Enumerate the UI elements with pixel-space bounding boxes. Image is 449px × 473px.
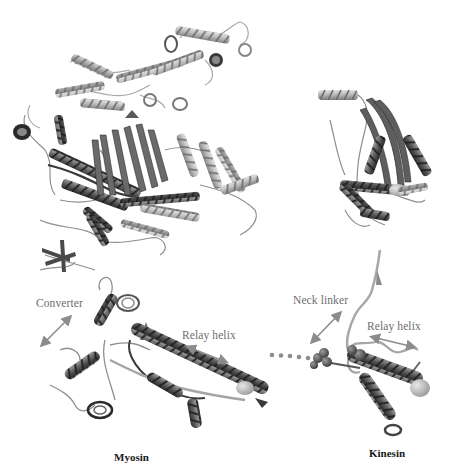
myosin-core-structure (50, 277, 271, 428)
protein-structure-figure: Converter Relay helix Neck linker Relay … (0, 0, 449, 473)
converter-label: Converter (36, 297, 83, 309)
myosin-relay-helix-label: Relay helix (182, 329, 236, 341)
structures-canvas (0, 0, 449, 473)
myosin-full-structure (13, 22, 260, 272)
kinesin-relay-helix-label: Relay helix (367, 320, 421, 332)
dotted-connector (270, 353, 311, 361)
neck-linker-label: Neck linker (293, 294, 348, 306)
kinesin-full-structure (318, 90, 433, 226)
neck-linker-arrow (312, 313, 340, 342)
converter-arrow (42, 317, 70, 345)
myosin-caption: Myosin (114, 451, 149, 463)
kinesin-core-structure (310, 250, 430, 435)
kinesin-caption: Kinesin (369, 447, 405, 459)
